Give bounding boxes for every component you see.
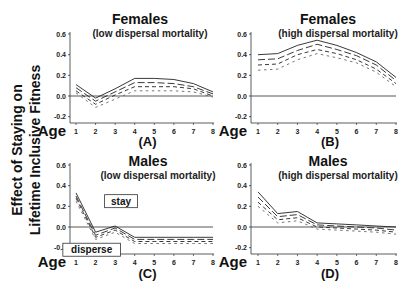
panel-label: (C) bbox=[138, 266, 156, 281]
x-tick-label: 6 bbox=[172, 259, 176, 266]
y-tick-label: 0.4 bbox=[237, 51, 247, 58]
x-tick-label: 7 bbox=[374, 259, 378, 266]
y-tick-label: 0.6 bbox=[56, 31, 66, 38]
panel-title: Females bbox=[112, 11, 168, 27]
x-tick-label: 6 bbox=[355, 259, 359, 266]
panel-c: Males(low dispersal mortality)0.60.40.20… bbox=[38, 153, 216, 281]
figure-panels: Females(low dispersal mortality)0.60.40.… bbox=[0, 0, 410, 293]
y-tick-label: 0.6 bbox=[237, 31, 247, 38]
series-line-solid bbox=[258, 192, 396, 227]
x-tick-label: 8 bbox=[394, 128, 398, 135]
panel-d: Males(high dispersal mortality)0.60.40.2… bbox=[219, 153, 398, 281]
series-line-dash bbox=[76, 87, 213, 105]
x-tick-label: 6 bbox=[172, 128, 176, 135]
x-tick-label: 4 bbox=[315, 259, 319, 266]
panel-subtitle: (low dispersal mortality) bbox=[92, 28, 207, 39]
series-line-solid bbox=[76, 78, 213, 98]
x-tick-label: 1 bbox=[256, 128, 260, 135]
x-tick-label: 3 bbox=[295, 259, 299, 266]
y-tick-label: -0.2 bbox=[54, 113, 66, 120]
panel-subtitle: (low dispersal mortality) bbox=[100, 170, 215, 181]
x-tick-label: 3 bbox=[295, 128, 299, 135]
series-line-dash bbox=[258, 50, 396, 84]
series-line-long-dash bbox=[76, 83, 213, 102]
x-tick-label: 4 bbox=[315, 128, 319, 135]
series-line-dash bbox=[258, 202, 396, 232]
x-tick-label: 8 bbox=[211, 128, 215, 135]
y-tick-label: 0.0 bbox=[56, 93, 66, 100]
x-tick-label: 3 bbox=[113, 259, 117, 266]
panel-title: Females bbox=[300, 11, 356, 27]
x-tick-label: 2 bbox=[94, 259, 98, 266]
annotation-stay: stay bbox=[111, 196, 131, 207]
x-tick-label: 2 bbox=[276, 259, 280, 266]
panel-label: (A) bbox=[138, 134, 156, 149]
x-tick-label: 1 bbox=[74, 259, 78, 266]
y-tick-label: 0.2 bbox=[56, 203, 66, 210]
x-tick-label: 4 bbox=[133, 128, 137, 135]
panel-label: (B) bbox=[321, 134, 339, 149]
x-tick-label: 3 bbox=[113, 128, 117, 135]
panel-b: Females(high dispersal mortality)0.60.40… bbox=[219, 11, 398, 149]
x-tick-label: 6 bbox=[355, 128, 359, 135]
x-tick-label: 5 bbox=[152, 259, 156, 266]
y-tick-label: 0.2 bbox=[237, 72, 247, 79]
panel-subtitle: (high dispersal mortality) bbox=[278, 170, 397, 181]
x-tick-label: 7 bbox=[191, 259, 195, 266]
x-axis-label: Age bbox=[219, 122, 247, 139]
x-tick-label: 2 bbox=[94, 128, 98, 135]
series-line-short-dash bbox=[76, 91, 213, 108]
x-tick-label: 2 bbox=[276, 128, 280, 135]
x-tick-label: 8 bbox=[211, 259, 215, 266]
panel-a: Females(low dispersal mortality)0.60.40.… bbox=[38, 11, 215, 149]
x-axis-label: Age bbox=[38, 122, 66, 139]
series-line-solid bbox=[76, 193, 213, 237]
x-axis-label: Age bbox=[219, 253, 247, 270]
y-tick-label: 0.6 bbox=[56, 162, 66, 169]
x-tick-label: 5 bbox=[335, 259, 339, 266]
x-tick-label: 7 bbox=[374, 128, 378, 135]
y-tick-label: 0.4 bbox=[56, 51, 66, 58]
y-tick-label: 0.0 bbox=[237, 93, 247, 100]
x-tick-label: 1 bbox=[74, 128, 78, 135]
x-tick-label: 1 bbox=[256, 259, 260, 266]
y-tick-label: 0.4 bbox=[56, 182, 66, 189]
panel-label: (D) bbox=[321, 266, 339, 281]
y-tick-label: 0.6 bbox=[237, 162, 247, 169]
series-line-long-dash bbox=[258, 44, 396, 80]
y-tick-label: -0.2 bbox=[235, 244, 247, 251]
y-tick-label: 0.2 bbox=[56, 72, 66, 79]
y-tick-label: 0.0 bbox=[56, 224, 66, 231]
y-tick-label: 0.0 bbox=[237, 224, 247, 231]
x-tick-label: 7 bbox=[191, 128, 195, 135]
panel-title: Males bbox=[129, 153, 168, 169]
y-tick-label: -0.2 bbox=[235, 113, 247, 120]
y-tick-label: 0.4 bbox=[237, 182, 247, 189]
annotation-disperse: disperse bbox=[71, 244, 113, 255]
x-tick-label: 8 bbox=[394, 259, 398, 266]
panel-subtitle: (high dispersal mortality) bbox=[278, 28, 397, 39]
x-tick-label: 4 bbox=[133, 259, 137, 266]
y-tick-label: 0.2 bbox=[237, 203, 247, 210]
panel-title: Males bbox=[309, 153, 348, 169]
x-axis-label: Age bbox=[38, 253, 66, 270]
series-line-long-dash bbox=[76, 196, 213, 239]
